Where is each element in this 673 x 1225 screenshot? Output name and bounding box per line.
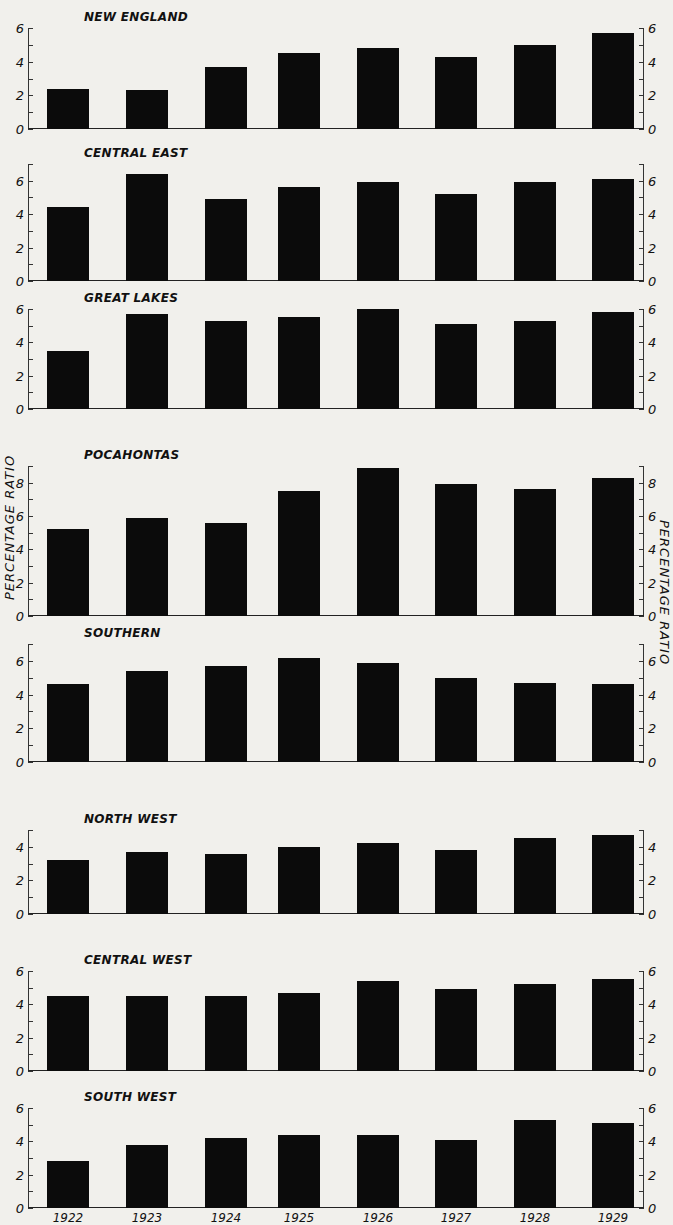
bar-1924 — [205, 854, 247, 914]
x-tick-label: 1928 — [514, 1211, 556, 1225]
y-tick-label-right: 4 — [648, 1134, 662, 1149]
y-tick — [639, 62, 644, 63]
y-tick — [639, 711, 644, 712]
bar-1929 — [592, 478, 634, 616]
y-tick — [639, 728, 644, 729]
y-tick — [28, 1158, 33, 1159]
y-tick — [28, 549, 33, 550]
panel-title: CENTRAL WEST — [84, 953, 191, 967]
chart-panel: POCAHONTAS0022446688 — [0, 448, 673, 624]
y-tick — [28, 678, 33, 679]
y-tick — [639, 516, 644, 517]
y-tick-label-left: 0 — [10, 1064, 24, 1079]
y-tick — [639, 914, 644, 915]
y-tick — [639, 661, 644, 662]
y-tick — [639, 197, 644, 198]
bar-1922 — [47, 996, 89, 1071]
y-tick-label-right: 2 — [648, 88, 662, 103]
y-tick-label-right: 6 — [648, 302, 662, 317]
y-tick — [639, 566, 644, 567]
y-tick-label-right: 6 — [648, 1101, 662, 1116]
y-tick-label-left: 0 — [10, 122, 24, 137]
y-tick — [639, 1054, 644, 1055]
bar-1924 — [205, 996, 247, 1071]
y-tick-label-right: 6 — [648, 509, 662, 524]
y-tick-label-left: 0 — [10, 402, 24, 417]
bar-1929 — [592, 179, 634, 281]
left-axis — [28, 466, 29, 616]
bar-1927 — [435, 1140, 477, 1208]
y-tick — [28, 1141, 33, 1142]
y-tick — [639, 745, 644, 746]
y-tick-label-left: 2 — [10, 575, 24, 590]
y-tick — [639, 1038, 644, 1039]
y-tick — [639, 1175, 644, 1176]
y-tick-label-right: 0 — [648, 609, 662, 624]
bar-1926 — [357, 468, 399, 616]
y-tick — [639, 583, 644, 584]
y-tick — [639, 28, 644, 29]
bar-1924 — [205, 199, 247, 281]
bar-1923 — [126, 852, 168, 914]
y-tick-label-right: 2 — [648, 721, 662, 736]
bar-1928 — [514, 45, 556, 129]
panel-title: NEW ENGLAND — [84, 10, 188, 24]
bar-1925 — [278, 847, 320, 914]
y-tick — [28, 392, 33, 393]
y-tick-label-right: 6 — [648, 964, 662, 979]
bar-1925 — [278, 187, 320, 281]
y-tick — [28, 661, 33, 662]
plot-area: 00224466 — [28, 644, 644, 762]
y-tick-label-right: 4 — [648, 542, 662, 557]
bar-1925 — [278, 53, 320, 129]
x-tick-label: 1927 — [435, 1211, 477, 1225]
y-tick-label-right: 0 — [648, 755, 662, 770]
y-tick — [28, 695, 33, 696]
y-tick — [639, 466, 644, 467]
bar-1928 — [514, 321, 556, 409]
bar-1924 — [205, 1138, 247, 1208]
y-tick — [639, 678, 644, 679]
y-tick — [28, 830, 33, 831]
bar-1928 — [514, 1120, 556, 1208]
bar-1928 — [514, 182, 556, 281]
panel-title: NORTH WEST — [84, 812, 177, 826]
y-tick-label-right: 0 — [648, 907, 662, 922]
bar-1929 — [592, 835, 634, 914]
y-tick — [639, 695, 644, 696]
bar-1922 — [47, 207, 89, 281]
bar-1927 — [435, 484, 477, 616]
y-tick — [639, 248, 644, 249]
y-tick — [639, 79, 644, 80]
y-tick — [28, 897, 33, 898]
y-tick — [639, 129, 644, 130]
y-tick — [639, 45, 644, 46]
y-tick — [28, 499, 33, 500]
y-tick — [28, 1038, 33, 1039]
y-tick — [28, 644, 33, 645]
y-tick — [28, 745, 33, 746]
y-tick — [639, 409, 644, 410]
x-tick-label: 1925 — [278, 1211, 320, 1225]
y-tick-label-left: 2 — [10, 1030, 24, 1045]
y-tick-label-right: 0 — [648, 122, 662, 137]
y-tick — [28, 728, 33, 729]
y-tick-label-left: 6 — [10, 653, 24, 668]
bar-1922 — [47, 351, 89, 409]
y-tick — [639, 1125, 644, 1126]
panel-title: CENTRAL EAST — [84, 146, 188, 160]
y-tick-label-right: 2 — [648, 1167, 662, 1182]
plot-area: 0022446619221923192419251926192719281929 — [28, 1108, 644, 1208]
y-tick — [28, 971, 33, 972]
bar-1925 — [278, 317, 320, 409]
y-tick-label-left: 6 — [10, 302, 24, 317]
y-tick-label-right: 4 — [648, 997, 662, 1012]
bar-1929 — [592, 684, 634, 762]
bar-1923 — [126, 518, 168, 616]
y-tick — [28, 112, 33, 113]
y-tick — [28, 79, 33, 80]
y-tick — [28, 1175, 33, 1176]
y-tick — [639, 326, 644, 327]
y-tick-label-right: 4 — [648, 839, 662, 854]
y-tick — [639, 988, 644, 989]
